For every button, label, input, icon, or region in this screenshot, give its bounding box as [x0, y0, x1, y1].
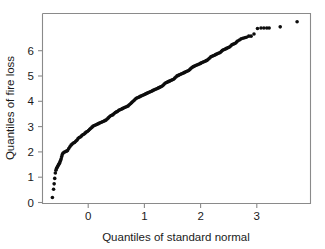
- figure-background: [0, 0, 325, 249]
- x-tick-label-2: 2: [197, 210, 203, 222]
- data-point: [295, 20, 299, 24]
- y-tick-label-3: 3: [28, 121, 34, 133]
- y-tick-label-0: 0: [28, 197, 34, 209]
- y-tick-label-5: 5: [28, 70, 34, 82]
- data-point: [52, 188, 56, 192]
- y-tick-label-1: 1: [28, 171, 34, 183]
- y-tick-label-2: 2: [28, 146, 34, 158]
- x-tick-label-0: 0: [85, 210, 91, 222]
- data-point: [51, 196, 55, 200]
- data-point: [256, 27, 260, 31]
- y-tick-label-4: 4: [28, 95, 35, 107]
- qq-plot-figure: 0 1 2 3 4 5 6 0 1 2 3 Quantiles of stand…: [0, 0, 325, 249]
- data-point: [249, 34, 253, 38]
- data-point: [52, 182, 56, 186]
- x-tick-label-3: 3: [254, 210, 260, 222]
- y-axis-title: Quantiles of fire loss: [4, 56, 16, 160]
- data-point: [53, 177, 57, 181]
- data-point: [252, 32, 256, 36]
- x-axis-title: Quantiles of standard normal: [102, 231, 250, 243]
- x-tick-label-1: 1: [141, 210, 147, 222]
- qq-plot-canvas: 0 1 2 3 4 5 6 0 1 2 3 Quantiles of stand…: [0, 0, 325, 249]
- data-point: [267, 26, 271, 30]
- data-point: [278, 25, 282, 29]
- y-tick-label-6: 6: [28, 45, 34, 57]
